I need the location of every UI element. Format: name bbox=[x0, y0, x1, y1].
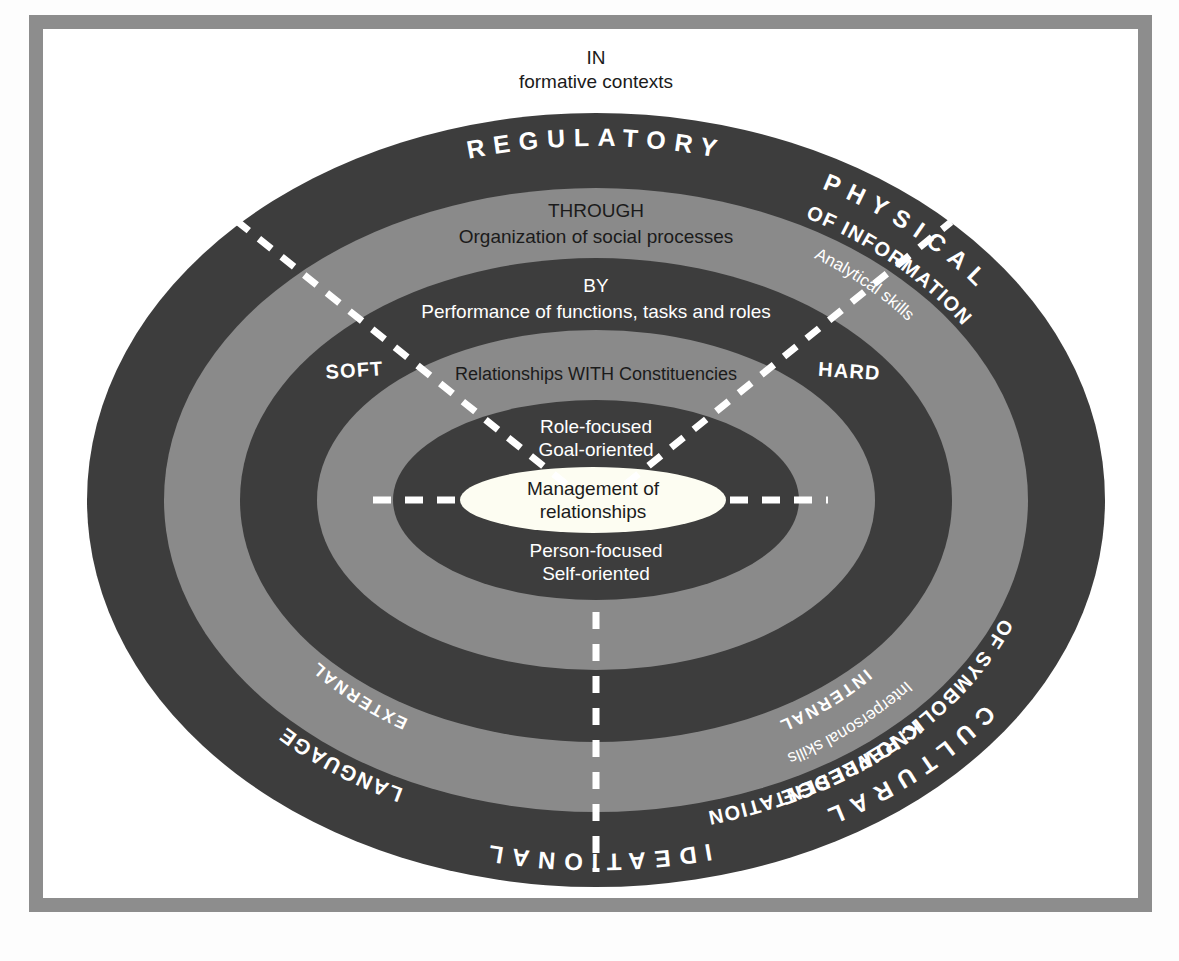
ring-5-bottom-label-line2: Self-oriented bbox=[542, 563, 650, 584]
ring-2-top-small-label: THROUGH bbox=[548, 200, 644, 221]
header-line1: IN bbox=[587, 47, 606, 68]
ring-3-left-quadrant-label: SOFT bbox=[325, 357, 385, 383]
ring-3-top-small-label: BY bbox=[583, 275, 609, 296]
concentric-ellipse-diagram: IN formative contexts REGULATORY IDEATIO… bbox=[0, 0, 1179, 961]
ring-5-bottom-label-line1: Person-focused bbox=[529, 540, 662, 561]
core-label-line2: relationships bbox=[540, 501, 647, 522]
header-line2: formative contexts bbox=[519, 71, 673, 92]
ring-4-top-label: Relationships WITH Constituencies bbox=[455, 364, 737, 384]
core-label-line1: Management of bbox=[527, 478, 660, 499]
ring-2-top-label: Organization of social processes bbox=[459, 226, 734, 247]
core-ellipse bbox=[460, 467, 726, 533]
page-background: IN formative contexts REGULATORY IDEATIO… bbox=[0, 0, 1179, 961]
ring-3-top-label: Performance of functions, tasks and role… bbox=[421, 301, 771, 322]
ring-5-top-label-line2: Goal-oriented bbox=[538, 439, 653, 460]
ring-5-top-label-line1: Role-focused bbox=[540, 416, 652, 437]
ring-3-right-quadrant-label: HARD bbox=[818, 358, 882, 384]
